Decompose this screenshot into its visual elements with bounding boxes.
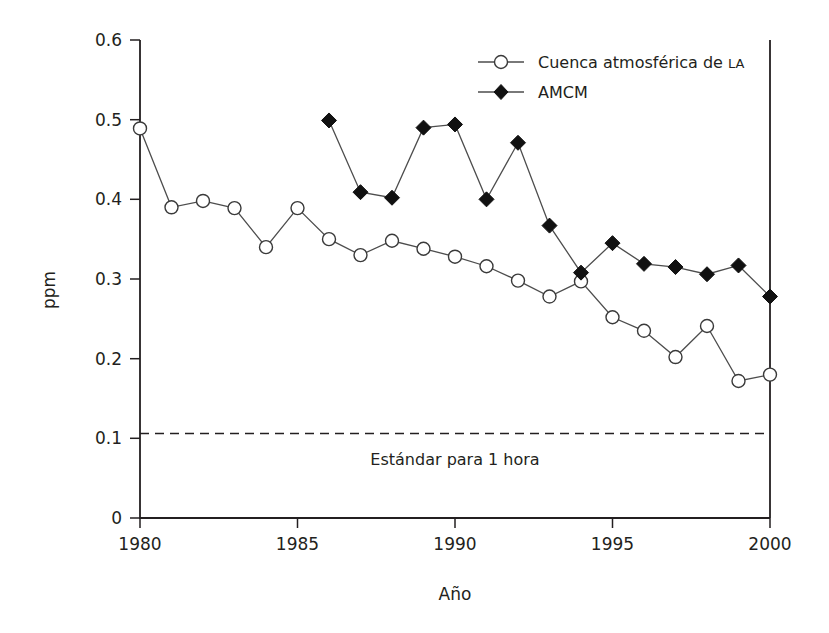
filled-diamond-icon — [494, 85, 508, 100]
y-axis-ticks — [130, 40, 140, 518]
data-point-open-circle — [701, 320, 714, 333]
x-tick-label-2: 1990 — [433, 534, 476, 554]
data-point-open-circle — [354, 249, 367, 262]
series-cuenca-la — [134, 122, 777, 388]
data-point-filled-diamond — [637, 256, 652, 271]
x-tick-label-4: 2000 — [748, 534, 791, 554]
data-point-open-circle — [606, 311, 619, 324]
ozone-trend-chart: 0 0.1 0.2 0.3 0.4 0.5 0.6 1980 1985 1990… — [0, 0, 829, 633]
data-point-open-circle — [480, 260, 493, 273]
y-tick-label-3: 0.3 — [95, 269, 122, 289]
chart-legend: Cuenca atmosférica de LA AMCM — [448, 38, 768, 110]
data-point-open-circle — [449, 250, 462, 263]
y-tick-label-1: 0.1 — [95, 428, 122, 448]
x-axis-title: Año — [439, 584, 472, 604]
x-tick-label-3: 1995 — [591, 534, 634, 554]
data-point-open-circle — [732, 374, 745, 387]
data-point-open-circle — [512, 274, 525, 287]
axis-frame — [140, 40, 770, 518]
legend-label-cuenca-la: Cuenca atmosférica de LA — [538, 53, 745, 72]
data-point-filled-diamond — [700, 267, 715, 282]
y-tick-label-2: 0.2 — [95, 349, 122, 369]
data-point-open-circle — [543, 290, 556, 303]
x-tick-label-1: 1985 — [276, 534, 319, 554]
y-tick-label-0: 0 — [111, 508, 122, 528]
data-point-open-circle — [291, 202, 304, 215]
data-point-open-circle — [197, 194, 210, 207]
data-point-filled-diamond — [385, 190, 400, 205]
data-point-open-circle — [323, 233, 336, 246]
data-point-filled-diamond — [353, 185, 368, 200]
data-point-open-circle — [228, 202, 241, 215]
data-point-open-circle — [417, 242, 430, 255]
data-point-filled-diamond — [542, 218, 557, 233]
legend-item-cuenca-la: Cuenca atmosférica de LA — [478, 53, 745, 72]
data-point-open-circle — [764, 368, 777, 381]
data-point-open-circle — [165, 201, 178, 214]
data-point-filled-diamond — [322, 113, 337, 128]
y-tick-label-5: 0.5 — [95, 110, 122, 130]
data-point-filled-diamond — [668, 260, 683, 275]
y-tick-label-6: 0.6 — [95, 30, 122, 50]
data-point-open-circle — [669, 351, 682, 364]
y-axis-title: ppm — [39, 271, 59, 309]
data-point-open-circle — [134, 122, 147, 135]
data-point-open-circle — [386, 234, 399, 247]
x-axis-ticks — [140, 518, 770, 528]
data-point-filled-diamond — [416, 120, 431, 135]
data-point-filled-diamond — [511, 135, 526, 150]
data-point-filled-diamond — [479, 192, 494, 207]
x-tick-label-0: 1980 — [118, 534, 161, 554]
data-point-open-circle — [260, 241, 273, 254]
open-circle-icon — [495, 56, 508, 69]
standard-threshold-label: Estándar para 1 hora — [370, 450, 539, 469]
legend-label-amcm: AMCM — [538, 83, 588, 102]
legend-item-amcm: AMCM — [478, 83, 588, 102]
y-tick-label-4: 0.4 — [95, 189, 122, 209]
data-point-filled-diamond — [448, 117, 463, 132]
chart-figure: 0 0.1 0.2 0.3 0.4 0.5 0.6 1980 1985 1990… — [0, 0, 829, 633]
data-point-open-circle — [638, 324, 651, 337]
series-amcm — [322, 113, 778, 304]
